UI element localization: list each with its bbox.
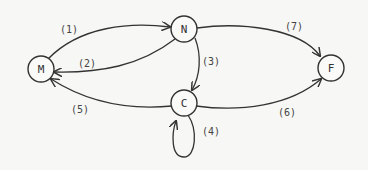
edge-7-label: (7) — [285, 21, 303, 32]
edge-3-n-to-c: (3) — [192, 38, 220, 90]
edge-5-label: (5) — [71, 104, 89, 115]
edge-2-label: (2) — [78, 58, 96, 69]
edge-2-n-to-m: (2) — [54, 39, 175, 72]
edge-6-c-to-f: (6) — [196, 79, 321, 118]
node-n: N — [171, 16, 197, 42]
node-f-label: F — [328, 62, 335, 75]
edge-3-label: (3) — [202, 56, 220, 67]
node-c: C — [171, 90, 197, 116]
edge-5-c-to-m: (5) — [51, 79, 172, 115]
edge-1-label: (1) — [60, 24, 78, 35]
edge-5-path — [51, 79, 172, 107]
edge-6-label: (6) — [278, 107, 296, 118]
edge-4-label: (4) — [202, 126, 220, 137]
edge-3-path — [192, 38, 199, 90]
edge-4-c-self-loop: (4) — [173, 115, 220, 157]
edge-4-path — [173, 115, 194, 157]
node-m: M — [28, 56, 54, 82]
edge-7-n-to-f: (7) — [197, 21, 320, 57]
edge-2-path — [54, 39, 175, 72]
edge-6-path — [196, 79, 321, 108]
node-c-label: C — [181, 97, 188, 110]
node-n-label: N — [181, 23, 188, 36]
node-f: F — [318, 55, 344, 81]
node-m-label: M — [38, 63, 45, 76]
state-diagram: (1) (2) (3) (4) (5) (6) (7) M N C — [0, 0, 368, 170]
